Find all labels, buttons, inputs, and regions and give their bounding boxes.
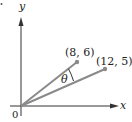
y-axis-label: y [19,1,25,12]
origin-label: 0 [12,109,18,120]
y-axis-arrow-icon [19,17,24,26]
x-axis-arrow-icon [110,104,119,109]
angle-arc [69,69,74,81]
corner-mark [1,3,3,5]
point-label-12-5: (12, 5) [96,56,132,67]
point-8-6 [75,60,79,64]
x-axis-label: x [120,100,126,111]
angle-theta-label: θ [61,74,68,85]
point-label-8-6: (8, 6) [65,47,95,58]
vector-angle-diagram: y x 0 (8, 6) (12, 5) θ [0,0,132,122]
